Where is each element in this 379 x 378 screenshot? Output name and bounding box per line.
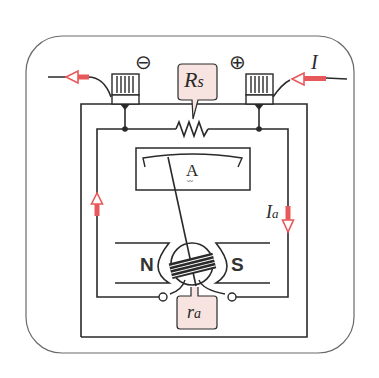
magnet-south-label: S (231, 255, 244, 275)
negative-terminal-symbol: ⊖ (135, 52, 152, 72)
armature-resistance-sub: a (194, 306, 201, 321)
positive-terminal-symbol: ⊕ (229, 52, 246, 72)
current-arrow-up-icon (92, 193, 103, 216)
current-arrow-down-icon (283, 206, 294, 232)
coil-terminal-right (228, 293, 236, 301)
coil-terminal-left (159, 293, 167, 301)
negative-terminal (112, 74, 139, 104)
meter-unit-sub: 〰 (187, 178, 193, 184)
positive-terminal (246, 74, 273, 104)
shunt-resistor (176, 122, 208, 136)
current-arrow-in-icon (292, 73, 326, 85)
current-total-label: I (311, 52, 318, 72)
junction-dot (256, 126, 262, 132)
junction-dot (122, 126, 128, 132)
shunt-label: Rs (184, 68, 204, 94)
armature-resistance-label: ra (187, 302, 201, 324)
terminal-foot (120, 104, 130, 110)
armature-resistance-main: r (187, 302, 194, 322)
meter-unit-label: A (186, 162, 198, 179)
shunt-label-main: R (184, 67, 197, 92)
terminal-foot (254, 104, 264, 110)
shunt-label-sub: s (197, 73, 203, 90)
current-armature-sub: a (272, 206, 279, 221)
negative-lead-wire (48, 77, 111, 97)
current-armature-label: Ia (266, 202, 279, 224)
magnet-north-label: N (140, 255, 154, 275)
current-arrow-left-icon (66, 71, 89, 83)
